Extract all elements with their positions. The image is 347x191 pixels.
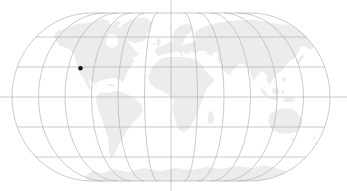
landmass-africa xyxy=(148,57,215,132)
landmass-madagascar xyxy=(208,111,214,124)
water-hudson-bay xyxy=(106,34,118,48)
landmass-new-zealand xyxy=(313,135,318,146)
landmasses xyxy=(54,18,318,182)
landmass-british-isles xyxy=(153,38,161,46)
landmass-cuba xyxy=(106,84,116,86)
location-dot xyxy=(78,66,82,70)
world-map-figure xyxy=(0,0,347,191)
world-map xyxy=(0,0,347,191)
landmass-new-guinea xyxy=(283,97,296,102)
water-black-sea xyxy=(197,51,207,55)
landmass-southeast-asia-islands xyxy=(260,77,286,100)
landmass-tasmania xyxy=(291,138,294,141)
water-caspian-sea xyxy=(212,52,218,62)
landmass-japan xyxy=(296,54,304,65)
